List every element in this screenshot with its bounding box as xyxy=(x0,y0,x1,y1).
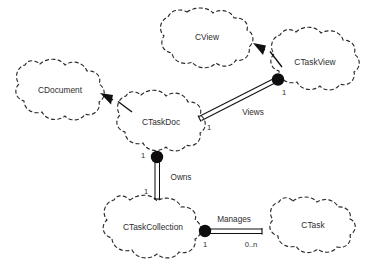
owns-multiplicity-ctaskdoc: 1 xyxy=(141,151,145,160)
class-node-ctaskcollection[interactable]: CTaskCollection xyxy=(103,195,201,258)
cdocument-label: CDocument xyxy=(38,85,83,95)
views-line-lower xyxy=(202,83,277,121)
class-node-ctask[interactable]: CTask xyxy=(270,197,355,253)
ctaskcollection-label: CTaskCollection xyxy=(123,222,183,232)
class-node-cview[interactable]: CView xyxy=(161,8,253,68)
cview-label: CView xyxy=(195,32,220,42)
manages-multiplicity-ctaskcollection: 1 xyxy=(203,240,207,249)
owns-label: Owns xyxy=(171,173,192,182)
class-node-cdocument[interactable]: CDocument xyxy=(16,59,104,120)
views-label: Views xyxy=(242,108,264,117)
ctaskview-label: CTaskView xyxy=(294,57,336,67)
association-views[interactable]: Views 1 1 xyxy=(198,73,286,132)
views-multiplicity-ctaskdoc: 1 xyxy=(207,123,211,132)
association-owns[interactable]: Owns 1 1 xyxy=(141,151,192,199)
manages-aggregation-dot xyxy=(199,225,211,237)
manages-label: Manages xyxy=(217,215,251,224)
owns-aggregation-dot xyxy=(151,151,163,163)
manages-multiplicity-ctask: 0..n xyxy=(245,240,258,249)
ctask-label: CTask xyxy=(301,220,325,230)
ctaskdoc-label: CTaskDoc xyxy=(142,117,180,127)
diagram-svg: CView CTaskView CDocument CTaskDoc CTask… xyxy=(0,0,376,269)
class-node-ctaskdoc[interactable]: CTaskDoc xyxy=(117,90,205,151)
association-manages[interactable]: Manages 1 0..n xyxy=(199,215,262,249)
views-aggregation-dot xyxy=(272,73,284,85)
views-multiplicity-ctaskview: 1 xyxy=(282,88,286,97)
class-diagram-canvas: CView CTaskView CDocument CTaskDoc CTask… xyxy=(0,0,376,269)
owns-multiplicity-ctaskcollection: 1 xyxy=(144,187,148,196)
